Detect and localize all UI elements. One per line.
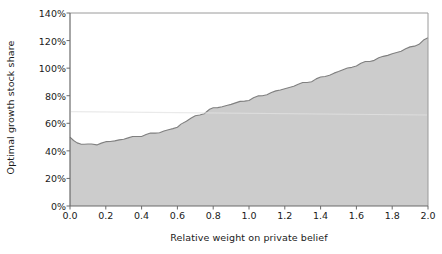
x-tick-label: 1.0 [241,210,256,221]
x-tick-label: 1.6 [349,210,364,221]
x-tick-label: 0.2 [98,210,113,221]
x-axis-title: Relative weight on private belief [70,232,428,243]
x-tick-label: 0.0 [62,210,77,221]
x-tick-label: 0.8 [206,210,221,221]
x-tick-label: 2.0 [420,210,435,221]
chart-figure: Optimal growth stock share 0%20%40%60%80… [0,0,442,254]
x-tick-label: 1.8 [385,210,400,221]
x-tick-label: 0.6 [170,210,185,221]
x-tick-label: 1.4 [313,210,328,221]
x-tick-label: 0.4 [134,210,149,221]
x-tick-label: 1.2 [277,210,292,221]
